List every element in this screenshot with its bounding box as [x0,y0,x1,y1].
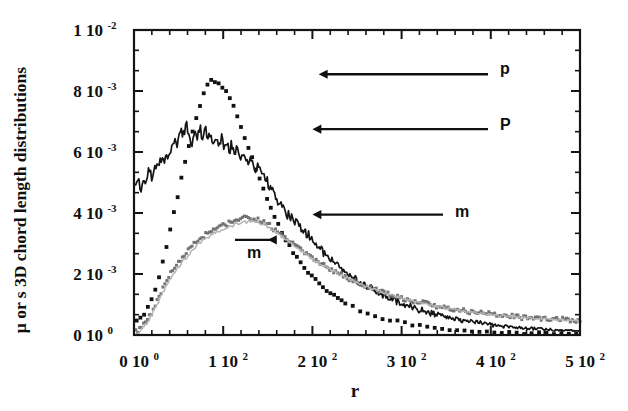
data-point [179,176,183,180]
data-point [314,277,318,281]
data-point [135,319,139,323]
svg-text:2: 2 [510,350,516,362]
data-point [492,331,496,335]
svg-text:2: 2 [421,350,427,362]
chart-figure: 0 1001 1022 1023 1024 1025 102 1 10-28 1… [0,0,628,411]
data-point [433,326,437,330]
svg-text:1 10: 1 10 [73,21,103,40]
data-point [325,289,329,293]
data-point [183,160,187,164]
data-point [146,305,150,309]
data-point [291,251,295,255]
data-point [388,319,392,323]
data-point [224,89,228,93]
data-point [462,307,465,310]
data-point [198,104,202,108]
data-point [485,330,489,334]
data-point [239,125,243,129]
data-point [176,195,180,199]
svg-text:0 10: 0 10 [73,326,103,345]
data-point [256,217,259,220]
svg-text:6 10: 6 10 [73,143,103,162]
data-point [269,206,273,210]
data-point [153,288,157,292]
data-point [185,252,188,255]
data-point [295,255,299,259]
data-point [268,222,271,225]
svg-text:0 10: 0 10 [119,352,149,371]
svg-text:5 10: 5 10 [565,352,595,371]
data-point [403,320,407,324]
data-point [440,327,444,331]
data-point [258,177,262,181]
data-point [332,293,336,297]
data-point [396,319,400,323]
data-point [310,274,314,278]
data-point [322,262,325,265]
data-point [156,298,159,301]
data-point [157,275,161,279]
data-point [302,266,306,270]
svg-text:2 10: 2 10 [73,265,103,284]
data-point [261,187,265,191]
data-point [191,245,194,248]
svg-text:4 10: 4 10 [73,204,103,223]
data-point [351,304,355,308]
svg-text:2: 2 [599,350,605,362]
annotation-label: P [500,116,511,133]
data-point [478,330,482,334]
annotation-label: m [247,244,261,261]
data-point [340,298,344,302]
svg-text:2: 2 [332,350,338,362]
data-point [161,260,165,264]
data-point [381,317,385,321]
data-point [274,227,277,230]
data-point [209,78,213,82]
data-point [418,323,422,327]
data-point [265,197,269,201]
data-point [321,285,325,289]
data-point [425,325,429,329]
svg-text:2: 2 [243,350,249,362]
data-point [168,228,172,232]
annotation-label: m [455,203,469,220]
data-point [317,281,321,285]
x-axis-title: r [351,380,360,401]
svg-text:-2: -2 [107,19,117,31]
svg-text:3 10: 3 10 [387,352,417,371]
data-point [220,86,224,90]
data-point [173,267,176,270]
data-point [299,260,303,264]
svg-text:0: 0 [107,324,113,336]
data-point [410,324,414,328]
data-point [161,286,164,289]
data-point [276,222,280,226]
data-point [202,91,206,95]
data-point [358,309,362,313]
data-point [217,81,221,85]
annotation-label: p [500,60,510,77]
data-point [165,279,168,282]
data-point [343,302,347,306]
svg-text:8 10: 8 10 [73,82,103,101]
data-point [273,215,277,219]
data-point [150,297,154,301]
data-point [139,316,143,320]
data-point [194,116,198,120]
data-point [232,104,236,108]
svg-text:-3: -3 [107,141,117,153]
data-point [142,313,146,317]
data-point [373,314,377,318]
svg-text:-3: -3 [107,80,117,92]
data-point [288,243,292,247]
data-point [336,296,340,300]
svg-text:1 10: 1 10 [208,352,238,371]
data-point [172,210,176,214]
data-point [183,255,186,258]
data-point [213,80,217,84]
data-point [340,271,343,274]
svg-text:4 10: 4 10 [476,352,506,371]
svg-text:2 10: 2 10 [298,352,328,371]
data-point [210,230,213,233]
y-axis-title: μ or s 3D chord length distributions [10,67,30,333]
